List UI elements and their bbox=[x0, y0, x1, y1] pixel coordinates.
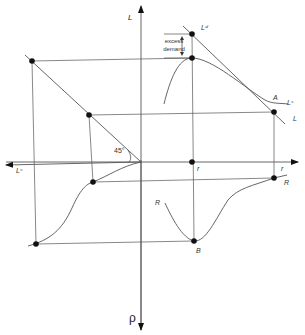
four-quadrant-diagram bbox=[0, 0, 305, 335]
label-Ls-curve: Lˢ bbox=[287, 99, 293, 106]
excess-demand-line2: demand bbox=[162, 45, 186, 53]
axis-label-r: r bbox=[281, 165, 283, 172]
label-R-right: R bbox=[284, 179, 289, 186]
label-R-left: R bbox=[155, 199, 160, 206]
lower-left-curve bbox=[28, 162, 141, 246]
axis-label-L: L bbox=[128, 14, 132, 22]
point-mid-right bbox=[271, 109, 277, 115]
label-A: A bbox=[273, 94, 278, 101]
vref-center-right bbox=[192, 34, 194, 241]
point-r bbox=[189, 159, 195, 165]
label-B: B bbox=[196, 247, 201, 254]
label-Ld: Lᵈ bbox=[201, 24, 208, 31]
point-top bbox=[189, 31, 195, 37]
excess-demand-label: excess demand bbox=[162, 37, 186, 53]
point-hump bbox=[189, 55, 195, 61]
axis-label-Ls: Lˢ bbox=[16, 167, 22, 174]
label-45: 45° bbox=[114, 147, 125, 154]
ref-line-lower bbox=[93, 178, 274, 182]
point-B bbox=[191, 238, 197, 244]
ref-line-mid bbox=[89, 112, 274, 115]
labor-demand-line bbox=[183, 26, 285, 124]
forty-five-degree-line bbox=[25, 55, 141, 162]
axis-label-rho: ρ bbox=[129, 312, 136, 324]
ref-line-upper bbox=[32, 58, 192, 61]
point-upper-left bbox=[29, 58, 35, 64]
hump-curve bbox=[164, 58, 288, 104]
ref-line-bottom bbox=[36, 241, 194, 244]
R-curve bbox=[165, 175, 287, 241]
point-lower-left bbox=[90, 179, 96, 185]
label-r-origin: r bbox=[197, 165, 199, 172]
excess-demand-line1: excess bbox=[162, 37, 186, 45]
vref-mid-left bbox=[89, 115, 93, 182]
point-mid-left bbox=[86, 112, 92, 118]
point-bottom-left bbox=[33, 241, 39, 247]
label-L: L bbox=[293, 115, 297, 122]
vref-left bbox=[32, 61, 36, 244]
point-lower-right bbox=[271, 175, 277, 181]
